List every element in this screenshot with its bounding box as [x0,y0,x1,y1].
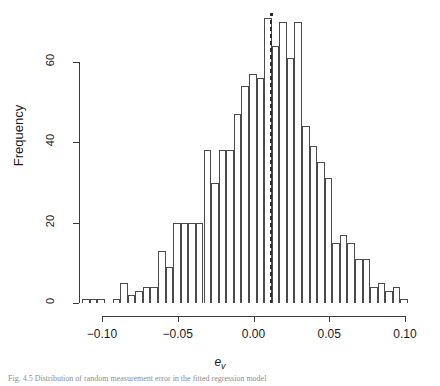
histogram-bar [211,183,219,304]
histogram-bar [120,283,128,303]
histogram-bar [196,223,204,303]
mean-reference-point-icon [270,13,273,16]
histogram-bar [113,299,121,303]
histogram-bar [226,150,234,303]
histogram-bar [181,223,189,303]
histogram-bar [370,287,378,303]
histogram-bar [272,46,280,303]
histogram-bar [249,74,257,303]
histogram-bar [97,299,105,303]
histogram-bar [325,178,333,303]
histogram-bar [363,259,371,303]
mean-reference-line [270,20,272,303]
histogram-bar [355,259,363,303]
histogram-bar [82,299,90,303]
histogram-bar [158,251,166,303]
histogram-bar [188,223,196,303]
histogram-bar [234,114,242,303]
histogram-bar [143,287,151,303]
histogram-bar [294,22,302,303]
histogram-bar [385,291,393,303]
histogram-bars [0,0,440,386]
histogram-bar [310,146,318,303]
histogram-bar [332,243,340,303]
histogram-bar [393,287,401,303]
histogram-bar [302,126,310,303]
histogram-bar [90,299,98,303]
histogram-bar [287,58,295,303]
histogram-bar [317,162,325,303]
histogram-bar [150,287,158,303]
histogram-bar [204,150,212,303]
histogram-bar [166,267,174,303]
histogram-bar [241,86,249,303]
histogram-bar [378,283,386,303]
x-axis-title-subscript: v [221,361,226,371]
histogram-bar [219,150,227,303]
histogram-bar [400,299,408,303]
histogram-bar [347,243,355,303]
histogram-bar [128,295,136,303]
figure-caption: Fig. 4.5 Distribution of random measurem… [8,374,432,384]
histogram-bar [340,235,348,303]
histogram-figure: Frequency 0204060−0.10−0.050.000.050.10 … [0,0,440,386]
histogram-bar [173,223,181,303]
histogram-bar [279,22,287,303]
histogram-bar [135,291,143,303]
histogram-bar [257,78,265,303]
x-axis-title: ev [0,355,440,371]
